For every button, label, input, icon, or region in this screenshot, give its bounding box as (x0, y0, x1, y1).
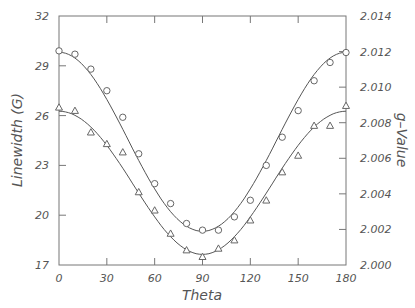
y-tick-label: 20 (35, 209, 49, 222)
circle-marker (167, 200, 173, 206)
circle-marker (311, 78, 317, 84)
y-tick-label: 29 (35, 60, 49, 73)
x-axis-ticks: 0306090120150180 (56, 16, 357, 285)
x-tick-label: 120 (240, 272, 261, 285)
y-tick-label: 17 (35, 259, 49, 272)
y-tick-label: 26 (35, 110, 49, 123)
x-tick-label: 30 (100, 272, 114, 285)
x-tick-label: 60 (148, 272, 162, 285)
y2-tick-label: 2.010 (360, 81, 392, 94)
circle-marker (104, 88, 110, 94)
x-tick-label: 150 (288, 272, 309, 285)
circle-marker (247, 197, 253, 203)
y2-tick-label: 2.012 (360, 46, 392, 59)
circle-marker (263, 162, 269, 168)
circle-marker (151, 180, 157, 186)
x-tick-label: 180 (336, 272, 357, 285)
circle-marker (72, 51, 78, 57)
y2-tick-label: 2.008 (360, 117, 392, 130)
linewidth-fit-curve (59, 52, 346, 231)
circle-marker (295, 107, 301, 113)
x-axis-title: Theta (182, 287, 222, 303)
y-tick-label: 23 (35, 159, 49, 172)
triangle-marker (343, 102, 350, 108)
circle-marker (136, 151, 142, 157)
x-tick-label: 0 (56, 272, 63, 285)
triangle-marker (167, 230, 174, 236)
circle-marker (231, 214, 237, 220)
circle-marker (199, 227, 205, 233)
triangle-marker (119, 149, 126, 155)
fit-curves (59, 52, 346, 254)
triangle-marker (151, 207, 158, 213)
circle-marker (183, 220, 189, 226)
y2-tick-label: 2.000 (360, 259, 392, 272)
data-markers (56, 48, 350, 260)
y2-tick-label: 2.014 (360, 10, 392, 23)
chart: 0306090120150180 172023262932 2.0002.002… (0, 0, 415, 308)
y-tick-label: 32 (35, 10, 49, 23)
triangle-marker (183, 247, 190, 253)
circle-marker (327, 59, 333, 65)
circle-marker (56, 48, 62, 54)
triangle-marker (71, 107, 78, 113)
y2-axis-title: g–Value (394, 113, 410, 168)
y2-tick-label: 2.006 (360, 152, 392, 165)
circle-marker (279, 134, 285, 140)
triangle-marker (327, 122, 334, 128)
y2-tick-label: 2.004 (360, 188, 392, 201)
x-tick-label: 90 (196, 272, 210, 285)
y-axis-title: Linewidth (G) (9, 93, 25, 187)
triangle-marker (295, 152, 302, 158)
circle-marker (120, 114, 126, 120)
circle-marker (215, 227, 221, 233)
triangle-marker (56, 104, 63, 110)
triangle-marker (103, 140, 110, 146)
y2-tick-label: 2.002 (360, 223, 392, 236)
circle-marker (343, 49, 349, 55)
circle-marker (88, 66, 94, 72)
